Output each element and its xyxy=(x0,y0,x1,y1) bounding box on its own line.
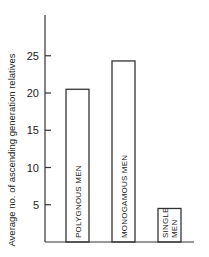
y-tick-label: 5 xyxy=(33,199,39,211)
bar-label: POLYGNOUS MEN xyxy=(74,165,83,238)
bar-label: SINGLE xyxy=(161,207,170,238)
y-ticks: 510152025 xyxy=(27,50,51,211)
y-tick-label: 25 xyxy=(27,50,39,62)
bar-group: SINGLEMEN xyxy=(158,207,181,242)
bar-label: MONOGAMOUS MEN xyxy=(120,155,129,238)
bar-group: POLYGNOUS MEN xyxy=(66,89,89,242)
bars: POLYGNOUS MENMONOGAMOUS MENSINGLEMEN xyxy=(66,61,181,242)
bar-label: MEN xyxy=(170,220,179,238)
y-tick-label: 20 xyxy=(27,87,39,99)
y-tick-label: 15 xyxy=(27,124,39,136)
bar-group: MONOGAMOUS MEN xyxy=(112,61,135,242)
y-tick-label: 10 xyxy=(27,162,39,174)
bar-chart: Average no. of ascending generation rela… xyxy=(0,0,209,257)
y-axis-label: Average no. of ascending generation rela… xyxy=(6,53,17,246)
